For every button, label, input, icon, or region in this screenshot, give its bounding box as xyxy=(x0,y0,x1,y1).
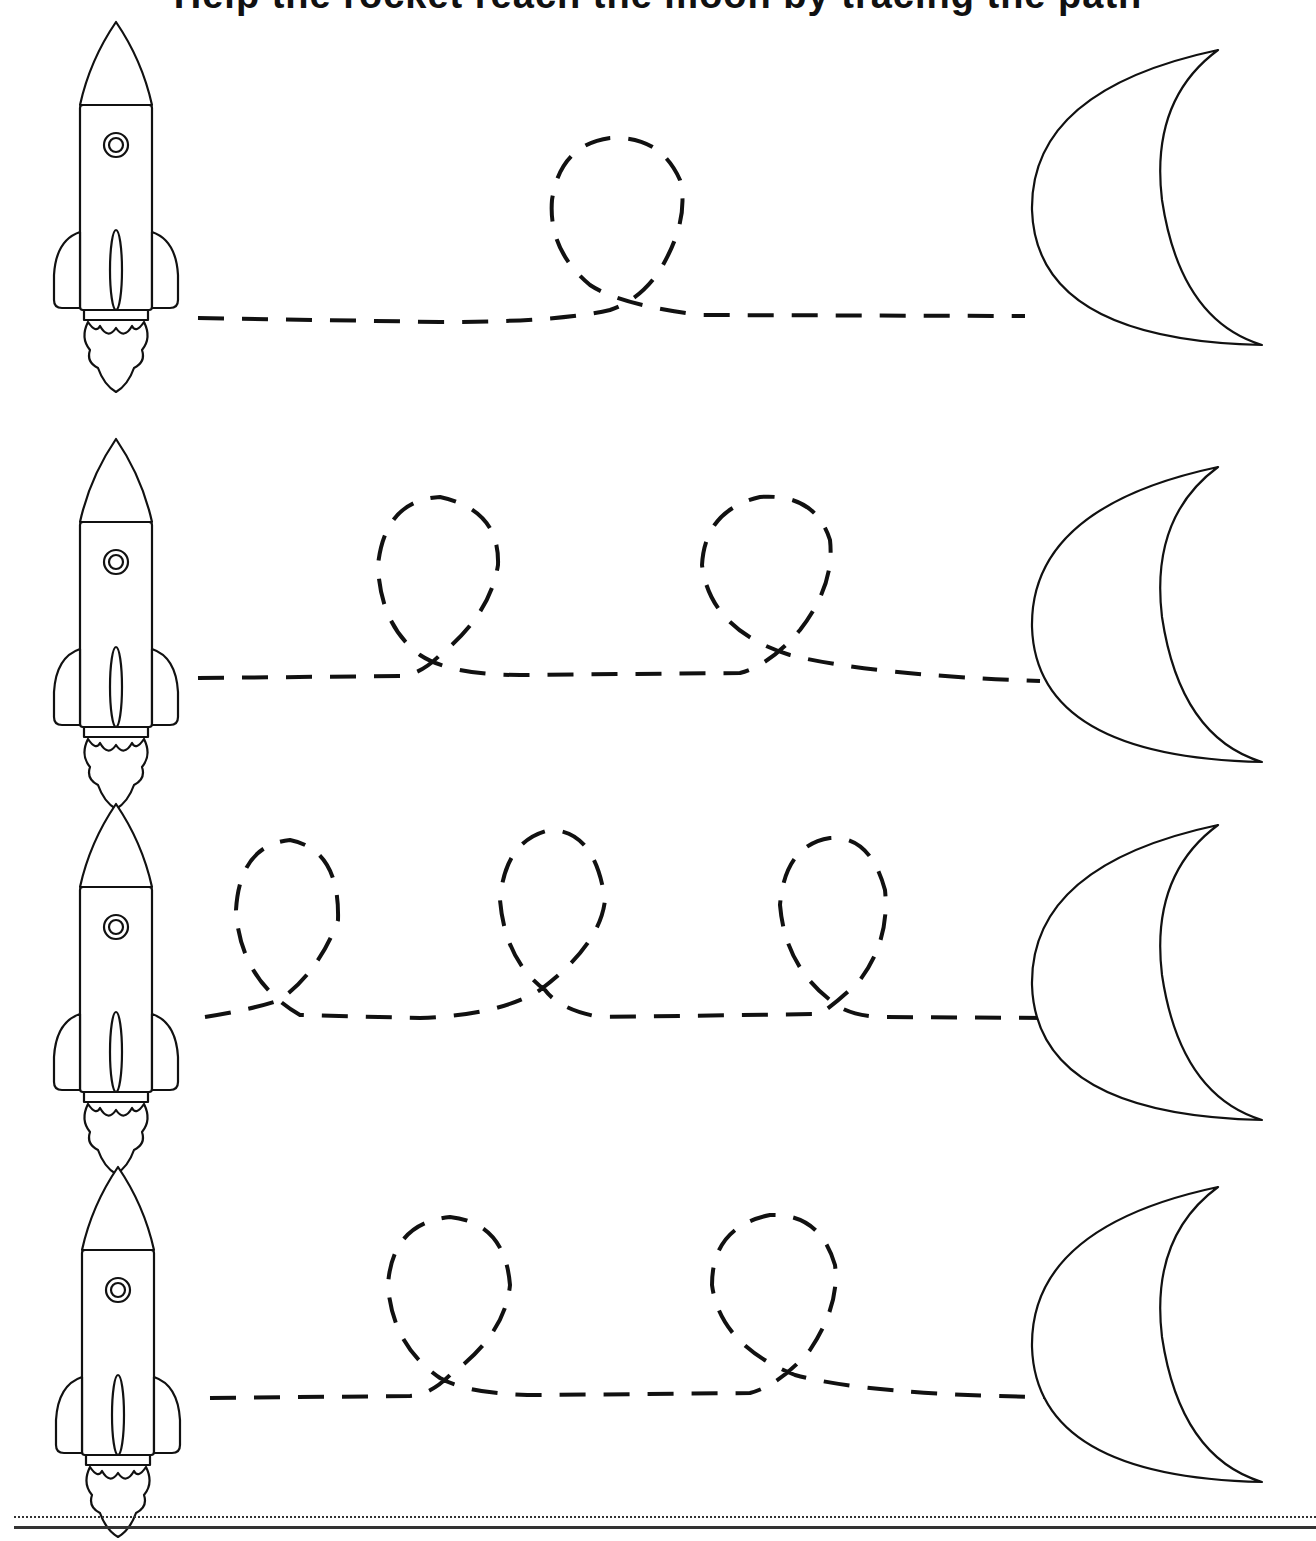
rocket-icon xyxy=(54,22,178,392)
solid-baseline xyxy=(14,1526,1316,1529)
crescent-moon-icon xyxy=(1032,1187,1262,1482)
trace-row-1 xyxy=(0,0,1316,370)
trace-path[interactable] xyxy=(198,497,1040,681)
trace-row-2 xyxy=(0,365,1316,735)
trace-row-3-art xyxy=(0,730,1316,1130)
trace-row-1-art xyxy=(0,0,1316,400)
crescent-moon-icon xyxy=(1032,467,1262,762)
crescent-moon-icon xyxy=(1032,825,1262,1120)
trace-row-3 xyxy=(0,730,1316,1100)
trace-path[interactable] xyxy=(210,1215,1045,1398)
trace-path[interactable] xyxy=(205,830,1045,1018)
dotted-guide-line xyxy=(14,1516,1316,1518)
trace-row-4 xyxy=(0,1095,1316,1465)
footer-writing-lines xyxy=(14,1516,1316,1529)
crescent-moon-icon xyxy=(1032,50,1262,345)
trace-row-4-art xyxy=(0,1095,1316,1495)
trace-row-2-art xyxy=(0,365,1316,765)
rocket-icon xyxy=(56,1167,180,1537)
trace-path[interactable] xyxy=(198,138,1025,322)
